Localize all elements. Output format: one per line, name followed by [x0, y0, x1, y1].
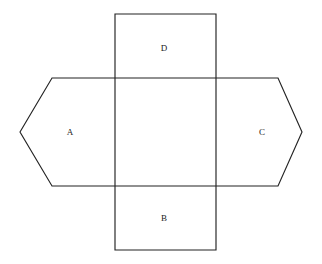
face-label-a: A [67, 128, 74, 137]
face-label-d: D [161, 44, 168, 53]
face-label-b: B [161, 214, 167, 223]
figure-canvas: A B C D [0, 0, 322, 264]
face-label-c: C [259, 128, 265, 137]
net-diagram-svg [0, 0, 322, 264]
